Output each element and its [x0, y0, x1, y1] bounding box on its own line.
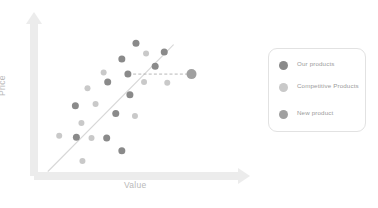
data-point [93, 101, 99, 107]
data-point [126, 91, 133, 98]
y-axis-arrow [26, 12, 42, 176]
data-point [143, 51, 149, 57]
data-point [164, 80, 170, 86]
legend-dot-competitive-products [279, 83, 288, 92]
y-axis-label: Price [0, 75, 7, 96]
legend-dot-our-products [279, 61, 288, 70]
data-point [73, 134, 80, 141]
data-point [132, 113, 138, 119]
data-point [104, 78, 111, 85]
data-point [152, 63, 159, 70]
chart-plot-area: Value Price [0, 0, 262, 208]
data-point [84, 85, 90, 91]
data-point [132, 40, 139, 47]
data-point [101, 70, 107, 76]
data-point [56, 133, 62, 139]
legend-item-new-product[interactable]: New product [279, 109, 363, 119]
data-point [187, 69, 197, 79]
legend-dot-new-product [279, 110, 288, 119]
legend-panel: Our products Competitive Products New pr… [268, 48, 366, 132]
data-point [161, 48, 168, 55]
scatter-chart-page: Value Price Our products Competitive Pro… [0, 0, 378, 208]
data-point [103, 135, 110, 142]
legend-label-our-products: Our products [297, 60, 335, 69]
data-points-group [56, 40, 196, 164]
legend-item-our-products[interactable]: Our products [279, 60, 363, 70]
data-point [72, 102, 79, 109]
legend-item-competitive-products[interactable]: Competitive Products [279, 82, 363, 92]
data-point [89, 135, 95, 141]
data-point [118, 147, 125, 154]
legend-label-competitive-products: Competitive Products [297, 82, 359, 91]
data-point [112, 110, 119, 117]
data-point [124, 71, 131, 78]
axes-group [26, 12, 250, 184]
data-point [118, 56, 125, 63]
data-point [79, 158, 85, 164]
legend-label-new-product: New product [297, 109, 333, 118]
x-axis-label: Value [124, 180, 147, 190]
scatter-plot-svg [0, 0, 262, 208]
data-point [78, 120, 84, 126]
data-point [141, 79, 147, 85]
